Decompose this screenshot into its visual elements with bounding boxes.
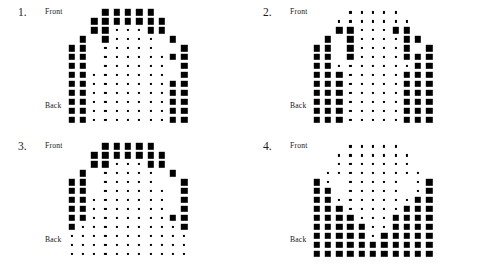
map-dot xyxy=(349,163,351,165)
map-dot xyxy=(336,72,342,78)
map-dot xyxy=(161,65,163,67)
map-dot xyxy=(136,9,142,15)
map-dot xyxy=(372,110,374,112)
map-dot xyxy=(181,63,187,69)
map-dot xyxy=(127,65,129,67)
map-dot xyxy=(82,244,84,246)
map-dot xyxy=(347,54,353,60)
map-dot xyxy=(394,56,396,58)
map-dot xyxy=(161,235,163,237)
map-dot xyxy=(394,181,396,183)
map-dot xyxy=(149,181,151,183)
map-dot xyxy=(325,188,331,194)
map-dot xyxy=(394,20,396,22)
map-dot xyxy=(116,74,118,76)
map-dot xyxy=(349,74,351,76)
map-dot xyxy=(147,152,153,158)
map-dot xyxy=(372,29,374,31)
map-dot xyxy=(116,235,118,237)
map-dot xyxy=(102,152,108,158)
map-dot xyxy=(404,36,410,42)
map-dot xyxy=(426,54,432,60)
map-dot xyxy=(138,252,140,254)
map-dot xyxy=(161,190,163,192)
panel-3: 3. Front Back xyxy=(0,134,245,268)
map-dot xyxy=(71,235,73,237)
map-dot xyxy=(347,241,353,247)
map-dot xyxy=(149,56,151,58)
map-dot xyxy=(138,29,140,31)
map-dot xyxy=(372,56,374,58)
back-label: Back xyxy=(45,101,61,110)
map-dot xyxy=(91,27,97,33)
panel-number: 3. xyxy=(18,140,27,152)
front-label: Front xyxy=(45,141,62,150)
map-dot xyxy=(138,181,140,183)
map-dot xyxy=(149,92,151,94)
map-dot xyxy=(325,241,331,247)
map-dot xyxy=(392,250,398,256)
map-dot xyxy=(415,63,421,69)
map-dot xyxy=(71,244,73,246)
map-dot xyxy=(68,45,74,51)
map-dot xyxy=(93,92,95,94)
map-dot xyxy=(372,118,374,120)
map-dot xyxy=(159,18,165,24)
map-dot xyxy=(404,250,410,256)
map-dot xyxy=(138,226,140,228)
map-dot xyxy=(347,224,353,230)
map-dot xyxy=(417,181,419,183)
map-dot xyxy=(372,181,374,183)
map-dot xyxy=(93,83,95,85)
map-dot xyxy=(181,206,187,212)
map-dot xyxy=(149,47,151,49)
map-dot xyxy=(336,81,342,87)
map-dot xyxy=(372,65,374,67)
map-dot xyxy=(172,235,174,237)
map-dot xyxy=(394,190,396,192)
map-dot xyxy=(383,101,385,103)
map-dot xyxy=(68,98,74,104)
map-dot xyxy=(127,190,129,192)
map-dot xyxy=(325,206,331,212)
map-dot xyxy=(116,226,118,228)
map-dot xyxy=(361,217,363,219)
map-dot xyxy=(361,38,363,40)
map-dot xyxy=(127,181,129,183)
map-dot xyxy=(116,56,118,58)
map-dot xyxy=(383,29,385,31)
map-dot xyxy=(80,98,86,104)
map-dot xyxy=(159,152,165,158)
map-dot xyxy=(138,190,140,192)
map-dot xyxy=(93,199,95,201)
map-dot xyxy=(426,63,432,69)
map-dot xyxy=(116,181,118,183)
map-dot xyxy=(383,145,385,147)
map-dot xyxy=(170,116,176,122)
map-dot xyxy=(125,18,131,24)
map-dot xyxy=(68,215,74,221)
map-dot xyxy=(149,101,151,103)
map-dot xyxy=(161,118,163,120)
map-dot xyxy=(149,252,151,254)
map-dot xyxy=(336,250,342,256)
map-dot xyxy=(104,172,106,174)
map-dot xyxy=(116,252,118,254)
map-dot xyxy=(349,11,351,13)
map-dot xyxy=(138,83,140,85)
map-dot xyxy=(372,11,374,13)
map-dot xyxy=(80,206,86,212)
map-dot xyxy=(136,152,142,158)
map-dot xyxy=(361,208,363,210)
map-dot xyxy=(138,65,140,67)
map-dot xyxy=(181,81,187,87)
map-dot xyxy=(125,143,131,149)
map-dot xyxy=(68,188,74,194)
map-dot xyxy=(104,217,106,219)
map-dot xyxy=(426,188,432,194)
dot-matrix-map xyxy=(311,142,435,258)
map-dot xyxy=(136,18,142,24)
map-dot xyxy=(325,232,331,238)
map-dot xyxy=(426,224,432,230)
map-dot xyxy=(381,250,387,256)
